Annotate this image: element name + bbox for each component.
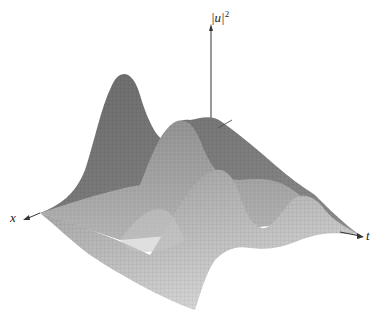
surface-plot <box>0 0 383 314</box>
x-axis-label: x <box>10 211 16 224</box>
z-axis-label-base: |u| <box>211 10 225 25</box>
z-axis <box>209 24 213 125</box>
t-axis-label: t <box>366 229 370 242</box>
x-axis <box>23 213 40 220</box>
z-axis-label-power: 2 <box>225 9 230 19</box>
z-axis-label: |u|2 <box>211 10 229 24</box>
